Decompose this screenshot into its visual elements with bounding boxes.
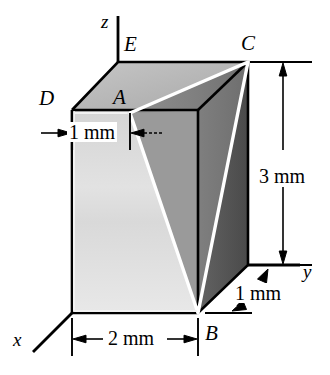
solid-diagram-svg [0,0,330,375]
dim-label-1mm-depth: 1 mm [233,283,283,303]
vertex-label-C: C [241,33,255,54]
vertex-label-A: A [113,87,126,108]
dim-label-1mm-width: 1 mm [67,122,117,142]
x-axis-line [33,313,72,352]
arrowhead-3mm-down [279,251,287,264]
arrowhead-2mm-left [73,335,86,343]
z-axis-label: z [101,12,108,31]
dim-3mm-group [250,62,312,265]
arrowhead-2mm-right [184,335,197,343]
dim-label-2mm-length: 2 mm [105,328,157,348]
x-axis-label: x [13,330,21,349]
arrowhead-depth-up [258,269,269,283]
vertex-label-D: D [39,88,54,109]
arrowhead-3mm-up [279,63,287,76]
y-axis-label: y [303,262,311,281]
vertex-label-E: E [124,34,137,55]
dim-label-3mm-height: 3 mm [256,165,308,187]
vertex-label-B: B [205,323,218,344]
figure-canvas: z y x E C D A B 1 mm 3 mm 1 mm 2 mm [0,0,330,375]
